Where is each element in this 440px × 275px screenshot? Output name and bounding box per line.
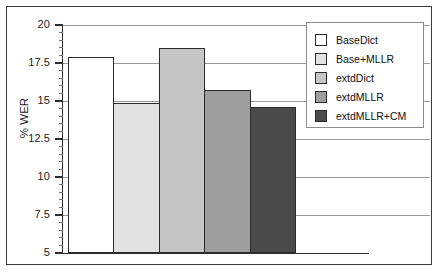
legend-item[interactable]: extdMLLR+CM [315, 106, 423, 125]
legend-item[interactable]: extdMLLR [315, 87, 423, 106]
y-tick-label: 7.5 [0, 208, 50, 220]
legend-swatch-icon [315, 53, 327, 65]
legend-swatch-icon [315, 91, 327, 103]
legend-swatch-icon [315, 72, 327, 84]
y-tick [55, 24, 63, 25]
y-tick [55, 62, 63, 63]
y-tick-label: 15 [0, 94, 50, 106]
bar-base-plus-mllr[interactable] [113, 103, 159, 253]
y-tick-label: 12.5 [0, 132, 50, 144]
y-tick [55, 138, 63, 139]
legend-item[interactable]: extdDict [315, 68, 423, 87]
legend-item[interactable]: BaseDict [315, 30, 423, 49]
y-tick [55, 252, 63, 253]
y-tick [55, 214, 63, 215]
y-tick [55, 176, 63, 177]
bar-basedict[interactable] [68, 57, 114, 253]
bar-extdmllr-plus-cm[interactable] [250, 107, 296, 253]
bar-chart-figure: % WER 57.51012.51517.520 BaseDict Base+M… [0, 0, 440, 275]
legend-box: BaseDict Base+MLLR extdDict extdMLLR ext… [306, 22, 424, 128]
legend-item-label: extdDict [336, 72, 374, 84]
y-tick-label: 5 [0, 246, 50, 258]
legend-item-label: extdMLLR [336, 91, 384, 103]
legend-item-label: Base+MLLR [336, 53, 394, 65]
bar-extddict[interactable] [159, 48, 205, 253]
bar-extdmllr[interactable] [204, 90, 250, 253]
legend-item-label: BaseDict [336, 34, 378, 46]
legend-item-label: extdMLLR+CM [336, 110, 406, 122]
legend-swatch-icon [315, 110, 327, 122]
y-tick-label: 20 [0, 18, 50, 30]
legend-item[interactable]: Base+MLLR [315, 49, 423, 68]
y-tick-label: 17.5 [0, 56, 50, 68]
legend-swatch-icon [315, 34, 327, 46]
y-tick [55, 100, 63, 101]
y-tick-label: 10 [0, 170, 50, 182]
